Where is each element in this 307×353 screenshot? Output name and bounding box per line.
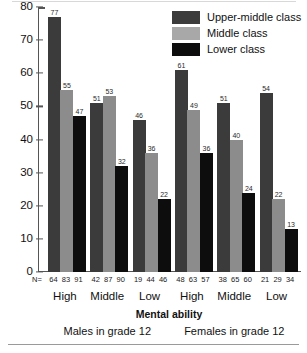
x-axis-category-label: High: [180, 291, 204, 303]
bar-group: 515332: [90, 7, 126, 272]
bar: 49: [187, 110, 200, 272]
sample-size-value: 21: [261, 276, 269, 284]
sample-size-value: 44: [146, 276, 154, 284]
bar: 24: [242, 193, 255, 273]
y-axis-tick-label: 20: [20, 200, 33, 212]
bar-value-label: 53: [105, 88, 113, 95]
bar: 22: [158, 199, 171, 272]
bar-value-label: 40: [232, 132, 240, 139]
sample-size-value: 64: [49, 276, 57, 284]
chart-container: 01020304050607080 7755475153324636226149…: [0, 0, 307, 353]
sample-size-value: 29: [273, 276, 281, 284]
sample-size-value: 90: [117, 276, 125, 284]
legend-swatch: [172, 27, 200, 40]
y-axis-tick-label: 70: [20, 34, 33, 46]
bar-value-label: 51: [220, 95, 228, 102]
panel-label: Females in grade 12: [184, 326, 284, 337]
bar: 55: [60, 90, 73, 272]
sample-size-value: 34: [286, 276, 294, 284]
bar: 47: [73, 116, 86, 272]
bar-value-label: 24: [245, 185, 253, 192]
bar: 36: [200, 153, 213, 272]
bar-value-label: 51: [93, 95, 101, 102]
bar-value-label: 54: [262, 85, 270, 92]
sample-size-value: 60: [244, 276, 252, 284]
y-axis-tick-label: 80: [20, 1, 33, 13]
legend-swatch: [172, 11, 200, 24]
bar-value-label: 61: [178, 62, 186, 69]
sample-size-value: 57: [201, 276, 209, 284]
bar-value-label: 77: [51, 9, 59, 16]
legend-item: Middle class: [172, 27, 301, 40]
legend-item: Upper-middle class: [172, 11, 301, 24]
bar: 61: [175, 70, 188, 272]
y-axis-tick-label: 40: [20, 134, 33, 146]
y-axis-tick-label: 30: [20, 167, 33, 179]
bar-value-label: 49: [190, 102, 198, 109]
bar-value-label: 32: [118, 158, 126, 165]
x-axis-title: Mental ability: [38, 309, 300, 320]
sample-size-row: N= 648391428790194446486357386560212934: [38, 276, 300, 286]
x-axis-category-label: Middle: [217, 291, 251, 303]
bar-value-label: 22: [160, 191, 168, 198]
sample-size-value: 38: [219, 276, 227, 284]
bar: 77: [48, 17, 61, 272]
bar: 22: [272, 199, 285, 272]
bar-value-label: 36: [203, 145, 211, 152]
bar-value-label: 55: [63, 82, 71, 89]
legend-item: Lower class: [172, 43, 301, 56]
sample-size-value: 65: [231, 276, 239, 284]
sample-size-value: 48: [176, 276, 184, 284]
sample-size-value: 83: [62, 276, 70, 284]
panel-label: Males in grade 12: [64, 326, 151, 337]
legend-label: Middle class: [207, 28, 268, 39]
bar: 40: [230, 140, 243, 273]
bar: 46: [133, 120, 146, 272]
y-axis-tick-label: 10: [20, 233, 33, 245]
bar: 51: [90, 103, 103, 272]
legend-label: Upper-middle class: [207, 12, 301, 23]
legend-label: Lower class: [207, 44, 265, 55]
sample-size-value: 91: [74, 276, 82, 284]
x-axis-category-label: Low: [266, 291, 287, 303]
bar-group: 463622: [133, 7, 169, 272]
x-axis-category-labels: HighMiddleLowHighMiddleLow: [38, 291, 300, 305]
panel-group-labels: Males in grade 12Females in grade 12: [0, 326, 307, 340]
y-axis-tick-label: 50: [20, 101, 33, 113]
bar: 51: [217, 103, 230, 272]
sample-size-value: 42: [92, 276, 100, 284]
sample-size-value: 46: [159, 276, 167, 284]
top-divider-rule: [12, 1, 296, 2]
chart-legend: Upper-middle classMiddle classLower clas…: [172, 11, 301, 56]
bar-group: 775547: [48, 7, 84, 272]
bar-value-label: 22: [275, 191, 283, 198]
bar: 53: [103, 96, 116, 272]
x-axis-category-label: Low: [139, 291, 160, 303]
bar-value-label: 36: [148, 145, 156, 152]
bar: 36: [145, 153, 158, 272]
sample-size-value: 63: [189, 276, 197, 284]
legend-swatch: [172, 43, 200, 56]
x-axis-category-label: Middle: [90, 291, 124, 303]
bar: 13: [285, 229, 298, 272]
sample-size-value: 19: [134, 276, 142, 284]
sample-size-value: 87: [104, 276, 112, 284]
bar: 32: [115, 166, 128, 272]
sample-size-prefix: N=: [32, 276, 42, 284]
bar-value-label: 47: [76, 108, 84, 115]
y-axis-tick-label: 60: [20, 68, 33, 80]
bottom-divider-rule: [8, 344, 299, 345]
bar: 54: [260, 93, 273, 272]
x-axis-category-label: High: [53, 291, 77, 303]
bar-value-label: 46: [135, 112, 143, 119]
bar-value-label: 13: [287, 221, 295, 228]
